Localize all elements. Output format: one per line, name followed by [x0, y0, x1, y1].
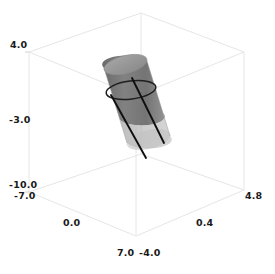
tick-label-x-mid: 0.4 [196, 217, 213, 228]
tick-label-x-right: 4.8 [245, 190, 262, 201]
tick-label-y-left: -7.0 [14, 190, 36, 201]
tick-label-z-bottom: -10.0 [9, 179, 37, 190]
tick-label-y-end: 7.0 [117, 247, 134, 258]
tick-label-z-top: 4.0 [10, 39, 27, 50]
tick-label-y-mid: 0.0 [63, 217, 80, 228]
tick-label-z-mid: -3.0 [9, 114, 31, 125]
plot-figure: 4.0 -3.0 -10.0 -7.0 4.8 0.0 0.4 7.0 -4.0 [0, 0, 275, 274]
plot-canvas [0, 0, 275, 274]
tick-label-x-start: -4.0 [139, 247, 161, 258]
